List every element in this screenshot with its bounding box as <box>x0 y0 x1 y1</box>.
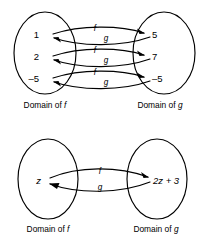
function-label-f-row-1: f <box>94 24 97 33</box>
domain-g-ellipse-top <box>133 12 195 94</box>
caption-domain-f-top: Domain of f <box>24 100 69 110</box>
function-label-f-row-2: f <box>94 46 97 55</box>
domain-f-ellipse-bottom <box>18 139 78 219</box>
caption-domain-f-bottom-prefix: Domain of <box>27 224 68 234</box>
domain-f-ellipse-top <box>14 12 76 94</box>
panel-symbolic: z 2z + 3 f g Domain of f Domain of g <box>18 139 187 234</box>
element-right-row-3: –5 <box>152 73 163 84</box>
element-left-row-3: –5 <box>28 73 39 84</box>
element-left-symbolic: z <box>35 175 41 186</box>
element-right-row-2: 7 <box>152 51 157 62</box>
element-left-row-2: 2 <box>34 51 39 62</box>
caption-domain-f-bottom-var: f <box>67 224 71 234</box>
function-label-g-row-3: g <box>104 78 109 87</box>
function-label-f-row-3: f <box>94 68 97 77</box>
function-label-g-row-1: g <box>104 34 109 43</box>
caption-domain-g-top-var: g <box>178 100 183 110</box>
diagram-canvas: 1 5 f g 2 7 f g <box>0 0 201 237</box>
caption-domain-g-top-prefix: Domain of <box>137 100 178 110</box>
caption-domain-g-bottom-prefix: Domain of <box>133 224 174 234</box>
element-right-symbolic: 2z + 3 <box>152 175 180 186</box>
caption-domain-f-top-var: f <box>64 100 68 110</box>
panel-numeric: 1 5 f g 2 7 f g <box>14 12 195 110</box>
caption-domain-g-top: Domain of g <box>137 100 183 110</box>
function-mapping-figure: 1 5 f g 2 7 f g <box>0 0 201 237</box>
caption-domain-g-bottom-var: g <box>174 224 179 234</box>
caption-domain-f-bottom: Domain of f <box>27 224 72 234</box>
function-label-g-symbolic: g <box>98 183 103 192</box>
function-label-g-row-2: g <box>104 56 109 65</box>
caption-domain-f-top-prefix: Domain of <box>24 100 65 110</box>
arrow-g-row-3 <box>54 81 150 89</box>
caption-domain-g-bottom: Domain of g <box>133 224 179 234</box>
element-right-row-1: 5 <box>152 29 157 40</box>
element-left-row-1: 1 <box>34 29 39 40</box>
